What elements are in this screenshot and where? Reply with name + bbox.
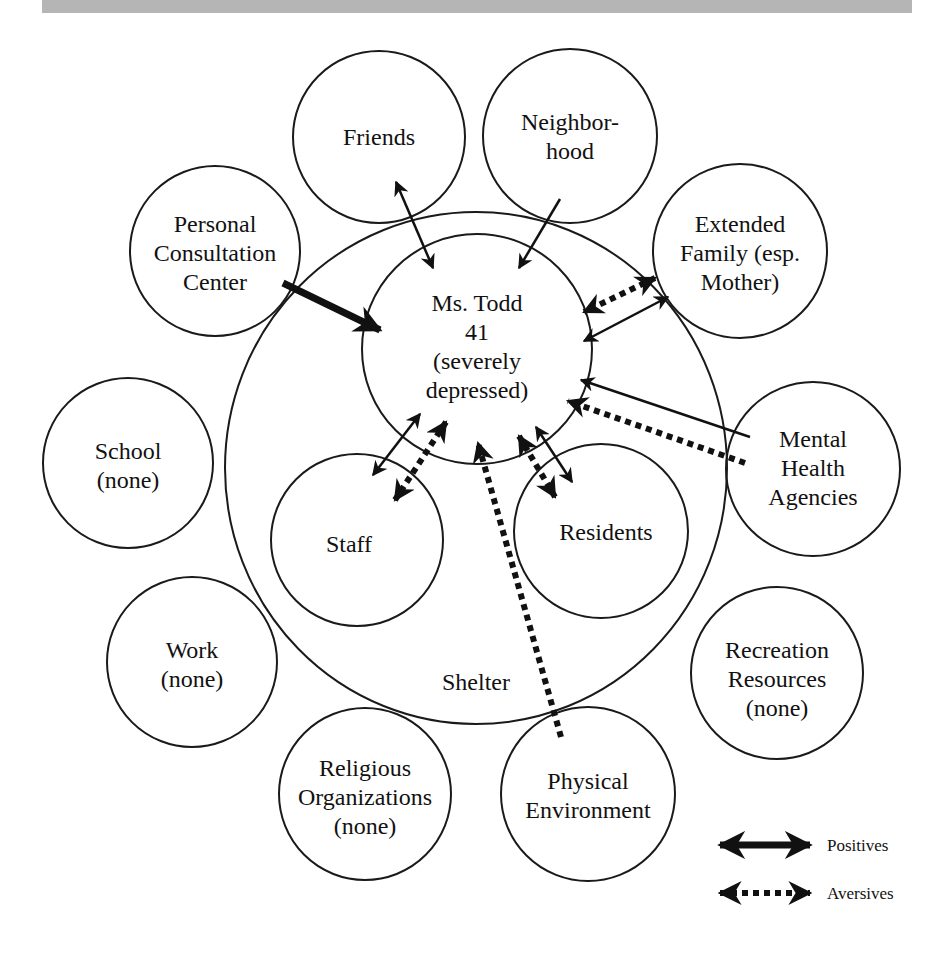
arrow-extended-family-positive: [584, 297, 668, 341]
node-label: Agencies: [768, 484, 857, 510]
arrow-consultation-positive: [283, 283, 380, 330]
node-label: Consultation: [154, 240, 277, 266]
node-label: Health: [781, 455, 845, 481]
node-label: (none): [161, 666, 224, 692]
node-label: Mental: [779, 426, 847, 452]
node-label: Staff: [326, 531, 372, 557]
node-label: Recreation: [725, 637, 829, 663]
node-label: Center: [183, 269, 247, 295]
node-label: Neighbor-: [521, 109, 619, 135]
node-religious-organizations: Religious Organizations (none): [279, 708, 451, 880]
node-label: Environment: [525, 797, 651, 823]
node-label: Physical: [547, 768, 629, 794]
client-age: 41: [465, 319, 489, 345]
center-node-client: Ms. Todd 41 (severely depressed): [362, 234, 592, 464]
node-label: Family (esp.: [680, 240, 800, 266]
node-recreation-resources: Recreation Resources (none): [691, 587, 863, 759]
node-label: Organizations: [298, 784, 432, 810]
node-extended-family: Extended Family (esp. Mother): [653, 164, 827, 338]
node-label: Personal: [174, 211, 257, 237]
arrow-staff-aversive: [395, 422, 446, 500]
shelter-label: Shelter: [442, 669, 510, 695]
node-label: Residents: [559, 519, 652, 545]
node-label: Resources: [728, 666, 827, 692]
node-mental-health-agencies: Mental Health Agencies: [726, 382, 900, 556]
node-staff: Staff: [271, 454, 443, 626]
legend-item-positives: Positives: [720, 836, 888, 855]
ecomap-diagram: Shelter Ms. Todd 41 (severely depressed)…: [0, 0, 948, 953]
node-label: Mother): [701, 269, 780, 295]
node-label: Work: [166, 637, 219, 663]
node-label: Friends: [343, 124, 415, 150]
node-physical-environment: Physical Environment: [501, 707, 675, 881]
node-label: (none): [97, 467, 160, 493]
client-name: Ms. Todd: [431, 290, 522, 316]
node-school: School (none): [43, 378, 213, 548]
arrow-neighborhood-positive: [519, 199, 560, 268]
node-label: School: [95, 438, 162, 464]
node-work: Work (none): [107, 577, 277, 747]
arrow-friends-positive: [396, 182, 433, 268]
node-label: (none): [746, 695, 809, 721]
arrow-extended-family-aversive: [584, 278, 655, 312]
node-residents: Residents: [514, 444, 688, 618]
node-friends: Friends: [293, 51, 465, 223]
arrow-mental-health-aversive: [568, 401, 745, 463]
legend: Positives Aversives: [720, 836, 894, 903]
node-personal-consultation-center: Personal Consultation Center: [130, 166, 300, 336]
node-label: hood: [546, 138, 594, 164]
client-status-line2: depressed): [426, 377, 529, 403]
node-neighborhood: Neighbor- hood: [483, 49, 657, 223]
client-status-line1: (severely: [433, 348, 521, 374]
node-label: Extended: [695, 211, 786, 237]
legend-item-aversives: Aversives: [720, 884, 894, 903]
legend-label: Aversives: [827, 884, 894, 903]
arrow-mental-health-positive: [581, 380, 750, 437]
node-label: Religious: [319, 755, 411, 781]
node-label: (none): [334, 813, 397, 839]
legend-label: Positives: [827, 836, 888, 855]
